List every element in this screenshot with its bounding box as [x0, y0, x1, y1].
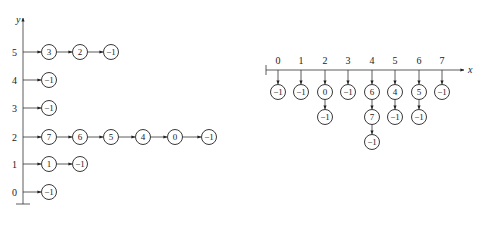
node-value: −1: [44, 103, 54, 113]
list-node: 0: [168, 130, 183, 145]
column-7: 7−1: [435, 55, 450, 100]
node-value: −1: [437, 87, 447, 97]
list-node: 4: [136, 130, 151, 145]
node-value: −1: [320, 112, 330, 122]
row-label: 3: [12, 103, 17, 114]
list-node: 5: [104, 130, 119, 145]
node-value: −1: [44, 75, 54, 85]
y-axis-label: y: [15, 14, 21, 25]
column-label: 7: [440, 55, 445, 66]
list-node: −1: [294, 85, 309, 100]
list-node: 5: [412, 85, 427, 100]
list-node: 7: [365, 110, 380, 125]
list-node: −1: [42, 73, 57, 88]
column-label: 4: [370, 55, 375, 66]
node-value: 5: [109, 132, 114, 142]
row-label: 1: [12, 159, 17, 170]
row-label: 5: [12, 47, 17, 58]
node-value: −1: [106, 47, 116, 57]
list-node: −1: [341, 85, 356, 100]
node-value: 2: [78, 47, 83, 57]
row-label: 4: [12, 75, 17, 86]
row-4: 4−1: [12, 73, 57, 88]
column-5: 54−1: [388, 55, 403, 125]
node-value: 0: [323, 87, 328, 97]
list-node: −1: [435, 85, 450, 100]
list-node: −1: [73, 157, 88, 172]
node-value: 1: [47, 159, 52, 169]
list-node: 4: [388, 85, 403, 100]
list-node: 1: [42, 157, 57, 172]
node-value: −1: [296, 87, 306, 97]
row-3: 3−1: [12, 101, 57, 116]
node-value: −1: [75, 159, 85, 169]
node-value: 6: [370, 87, 375, 97]
node-value: 7: [370, 112, 375, 122]
list-node: −1: [318, 110, 333, 125]
row-label: 2: [12, 132, 17, 143]
row-0: 0−1: [12, 185, 57, 200]
list-node: −1: [412, 110, 427, 125]
column-label: 6: [417, 55, 422, 66]
right-graph: x 0−11−120−13−1467−154−165−17−1: [266, 55, 473, 150]
x-axis-label: x: [467, 64, 473, 75]
list-node: 6: [365, 85, 380, 100]
column-2: 20−1: [318, 55, 333, 125]
column-label: 3: [346, 55, 351, 66]
column-6: 65−1: [412, 55, 427, 125]
node-value: 4: [393, 87, 398, 97]
node-value: 7: [47, 132, 52, 142]
list-node: 6: [73, 130, 88, 145]
row-5: 532−1: [12, 45, 119, 60]
list-node: −1: [202, 130, 217, 145]
row-2: 276540−1: [12, 130, 217, 145]
list-node: 3: [42, 45, 57, 60]
list-node: 2: [73, 45, 88, 60]
column-1: 1−1: [294, 55, 309, 100]
node-value: 6: [78, 132, 83, 142]
list-node: −1: [42, 185, 57, 200]
list-node: −1: [42, 101, 57, 116]
left-graph: y 532−14−13−1276540−111−10−1: [12, 14, 217, 204]
node-value: 5: [417, 87, 422, 97]
node-value: −1: [390, 112, 400, 122]
node-value: −1: [343, 87, 353, 97]
adjacency-list-diagram: y 532−14−13−1276540−111−10−1 x 0−11−120−…: [0, 0, 486, 227]
node-value: −1: [273, 87, 283, 97]
node-value: 0: [173, 132, 178, 142]
list-node: −1: [388, 110, 403, 125]
node-value: −1: [44, 187, 54, 197]
list-node: 7: [42, 130, 57, 145]
list-node: −1: [104, 45, 119, 60]
node-value: 4: [141, 132, 146, 142]
column-4: 467−1: [365, 55, 380, 150]
column-label: 0: [276, 55, 281, 66]
node-value: 3: [47, 47, 52, 57]
node-value: −1: [414, 112, 424, 122]
node-value: −1: [367, 137, 377, 147]
list-node: 0: [318, 85, 333, 100]
row-label: 0: [12, 187, 17, 198]
column-label: 1: [299, 55, 304, 66]
node-value: −1: [204, 132, 214, 142]
column-label: 5: [393, 55, 398, 66]
list-node: −1: [365, 135, 380, 150]
column-0: 0−1: [271, 55, 286, 100]
list-node: −1: [271, 85, 286, 100]
column-label: 2: [323, 55, 328, 66]
column-3: 3−1: [341, 55, 356, 100]
